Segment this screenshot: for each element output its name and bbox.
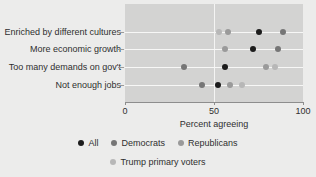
category-tick bbox=[118, 67, 124, 68]
data-point bbox=[263, 64, 269, 70]
legend-dot-icon bbox=[110, 159, 116, 165]
plot-panel bbox=[125, 4, 303, 102]
category-tick bbox=[118, 85, 124, 86]
category-tick bbox=[118, 32, 124, 33]
legend-item-democrats[interactable]: Democrats bbox=[111, 138, 165, 148]
data-point bbox=[227, 82, 233, 88]
data-point bbox=[199, 82, 205, 88]
legend-label: Trump primary voters bbox=[120, 157, 205, 167]
x-tick-mark bbox=[303, 102, 304, 105]
data-point bbox=[272, 64, 278, 70]
category-label: More economic growth bbox=[0, 44, 121, 54]
x-tick-mark bbox=[214, 102, 215, 105]
x-tick-label: 100 bbox=[295, 106, 310, 116]
legend-item-republicans[interactable]: Republicans bbox=[178, 138, 238, 148]
row-gridline bbox=[125, 85, 303, 86]
category-label: Enriched by different cultures bbox=[0, 27, 121, 37]
reference-line-50 bbox=[214, 4, 215, 102]
data-point bbox=[222, 46, 228, 52]
legend-item-all[interactable]: All bbox=[78, 138, 98, 148]
category-label: Too many demands on gov't bbox=[0, 62, 121, 72]
x-tick-label: 50 bbox=[209, 106, 219, 116]
data-point bbox=[215, 82, 221, 88]
legend-dot-icon bbox=[178, 140, 184, 146]
legend-dot-icon bbox=[111, 140, 117, 146]
x-tick-label: 0 bbox=[122, 106, 127, 116]
category-tick bbox=[118, 49, 124, 50]
data-point bbox=[181, 64, 187, 70]
data-point bbox=[256, 29, 262, 35]
dot-chart: Enriched by different culturesMore econo… bbox=[0, 0, 316, 177]
category-label: Not enough jobs bbox=[0, 80, 121, 90]
legend-label: Democrats bbox=[121, 138, 165, 148]
x-axis-title: Percent agreeing bbox=[125, 119, 303, 129]
legend-row-1: AllDemocratsRepublicans bbox=[0, 138, 316, 148]
data-point bbox=[222, 64, 228, 70]
x-tick-mark bbox=[125, 102, 126, 105]
legend-dot-icon bbox=[78, 140, 84, 146]
legend-row-2: Trump primary voters bbox=[0, 157, 316, 167]
legend-label: Republicans bbox=[188, 138, 238, 148]
legend-label: All bbox=[88, 138, 98, 148]
row-gridline bbox=[125, 32, 303, 33]
legend-item-trump-primary-voters[interactable]: Trump primary voters bbox=[110, 157, 205, 167]
